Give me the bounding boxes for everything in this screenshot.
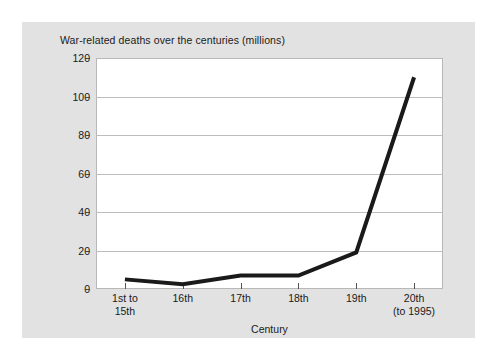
x-axis-tick-label: 1st to15th <box>112 292 138 318</box>
y-axis-tick-mark <box>85 212 90 213</box>
y-axis-tick-mark <box>85 58 90 59</box>
chart-title: War-related deaths over the centuries (m… <box>60 34 285 46</box>
y-axis-tick-mark <box>85 289 90 290</box>
data-series-line <box>96 58 443 289</box>
x-axis-tick-label: 17th <box>230 292 250 305</box>
figure-panel: War-related deaths over the centuries (m… <box>22 22 475 338</box>
x-axis-tick-label: 20th(to 1995) <box>393 292 435 318</box>
y-axis-tick-mark <box>85 97 90 98</box>
y-axis-tick-mark <box>85 251 90 252</box>
y-axis: 020406080100120 <box>54 58 90 289</box>
y-axis-tick-mark <box>85 174 90 175</box>
y-axis-tick-mark <box>85 135 90 136</box>
x-axis-tick-label: 18th <box>288 292 308 305</box>
x-axis-title: Century <box>96 323 443 335</box>
plot-region: 020406080100120 <box>96 58 443 289</box>
x-axis-tick-label: 16th <box>173 292 193 305</box>
x-axis-tick-label: 19th <box>346 292 366 305</box>
